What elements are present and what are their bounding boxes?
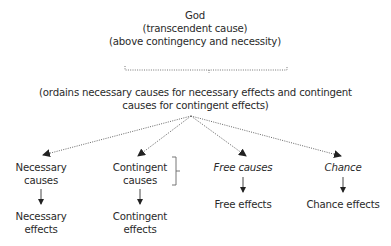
arrow-to-contingent-causes <box>138 116 191 156</box>
chance-node: Chance <box>298 161 388 174</box>
contingent-effects-node: Contingent effects <box>100 210 180 236</box>
contingent-causes-line-2: causes <box>100 174 180 187</box>
necessary-causes-node: Necessary causes <box>1 161 81 187</box>
necessary-effects-node: Necessary effects <box>1 210 81 236</box>
contingent-causes-node: Contingent causes <box>100 161 180 187</box>
free-causes-node: Free causes <box>198 161 288 174</box>
arrow-to-free-causes <box>191 116 246 156</box>
contingent-effects-line-2: effects <box>100 223 180 236</box>
necessary-effects-line-1: Necessary <box>1 210 81 223</box>
arrow-to-chance <box>191 116 341 156</box>
necessary-effects-line-2: effects <box>1 223 81 236</box>
dotted-arrows <box>43 116 341 156</box>
contingent-effects-line-1: Contingent <box>100 210 180 223</box>
necessary-causes-line-2: causes <box>1 174 81 187</box>
contingent-causes-line-1: Contingent <box>100 161 180 174</box>
necessary-causes-line-1: Necessary <box>1 161 81 174</box>
chance-effects-node: Chance effects <box>298 198 388 211</box>
free-effects-node: Free effects <box>198 198 288 211</box>
arrow-to-necessary-causes <box>43 116 191 155</box>
dotted-brace <box>125 66 287 73</box>
